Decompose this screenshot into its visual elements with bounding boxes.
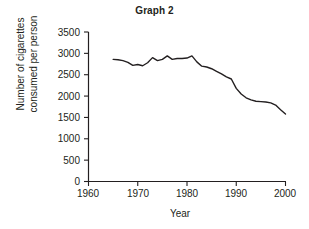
chart-figure: Graph 2 Number of cigarettes consumed pe… xyxy=(0,0,309,229)
plot-area xyxy=(0,0,309,229)
y-tick-marks xyxy=(84,32,89,182)
x-tick-marks xyxy=(89,182,286,187)
axes xyxy=(88,32,286,182)
data-series-line xyxy=(113,56,285,114)
